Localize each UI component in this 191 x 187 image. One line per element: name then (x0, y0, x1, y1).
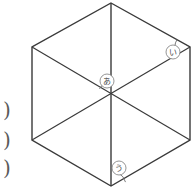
hexagon-diagram: あ い う ) ) ) (0, 0, 191, 187)
edge-mark-paren-3: ) (3, 156, 11, 180)
label-u-text: う (115, 164, 123, 173)
edge-mark-paren-1: ) (3, 98, 11, 122)
edge-mark-paren-2: ) (3, 128, 11, 152)
label-i-text: い (169, 48, 177, 57)
label-a-text: あ (103, 77, 111, 86)
geometry-figure-container: あ い う ) ) ) (0, 0, 191, 187)
